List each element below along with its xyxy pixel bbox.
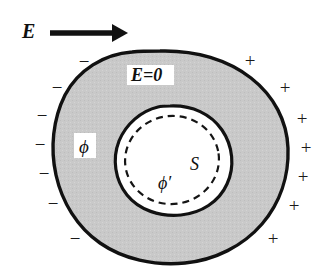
interior-field-label: E=0 bbox=[130, 65, 162, 85]
electrostatics-figure: E E=0 ϕ S ϕ′ −−−−−−− +++++++ bbox=[0, 0, 335, 277]
negative-charge-sign: − bbox=[70, 228, 81, 249]
positive-charge-sign: + bbox=[298, 166, 309, 187]
negative-charge-sign: − bbox=[35, 134, 46, 155]
positive-charge-sign: + bbox=[280, 77, 291, 98]
conductor-potential-label: ϕ bbox=[79, 136, 89, 157]
negative-charge-sign: − bbox=[52, 77, 63, 98]
external-field-label: E bbox=[21, 20, 35, 42]
positive-charge-sign: + bbox=[268, 228, 279, 249]
positive-charge-sign: + bbox=[245, 50, 256, 71]
negative-charge-sign: − bbox=[79, 51, 90, 72]
positive-charge-sign: + bbox=[301, 137, 312, 158]
negative-charge-sign: − bbox=[37, 105, 48, 126]
cavity-outline bbox=[115, 106, 232, 215]
positive-charge-sign: + bbox=[297, 108, 308, 129]
negative-charge-sign: − bbox=[39, 163, 50, 184]
cavity-potential-label: ϕ′ bbox=[158, 173, 172, 193]
conductor-potential-label-group: ϕ bbox=[74, 133, 96, 158]
negative-charge-sign: − bbox=[48, 193, 59, 214]
interior-field-label-group: E=0 bbox=[127, 65, 174, 85]
cavity-surface-label: S bbox=[190, 154, 199, 174]
positive-charge-sign: + bbox=[289, 195, 300, 216]
